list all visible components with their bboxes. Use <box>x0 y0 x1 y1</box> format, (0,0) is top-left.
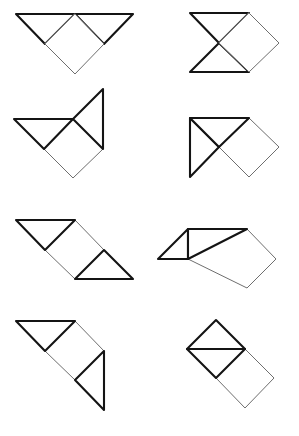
figure-8 <box>0 0 299 436</box>
figure-8-canvas <box>0 0 299 436</box>
figure-8-triangle-top <box>187 320 245 349</box>
tangram-sheet: ıı ı · · · · ı · · • · ı <box>0 0 299 436</box>
